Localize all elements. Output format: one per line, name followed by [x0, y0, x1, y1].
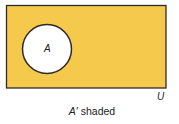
caption: A′ shaded [0, 105, 179, 117]
caption-text: shaded [81, 105, 115, 117]
set-a-label: A [43, 43, 51, 54]
universal-set-label: U [157, 91, 165, 102]
caption-set: A′ [69, 105, 78, 117]
